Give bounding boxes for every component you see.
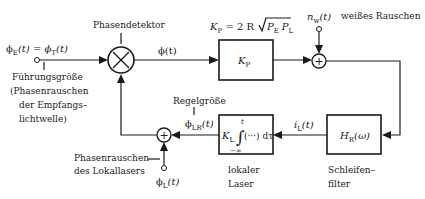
loop-filter: HR(ω) Schleifen– filter [327, 115, 381, 189]
noise-caption: weißes Rauschen [341, 11, 421, 21]
control-signal-label: ϕLR(t) [185, 118, 214, 132]
loop-filter-caption-1: Schleifen– [328, 165, 376, 175]
arrow-into-feedback-adder-bottom [160, 142, 168, 151]
input-terminal [35, 58, 40, 63]
local-laser-caption-1: lokaler [228, 165, 260, 175]
local-laser: KL ∫ t −∞ (···) dτ lokaler Laser [219, 115, 273, 189]
pll-block-diagram: ϕE(t) = ϕT(t) Führungsgröße (Phasenrausc… [0, 0, 425, 199]
plus-icon: + [314, 55, 323, 68]
arrow-into-detector-bottom [117, 74, 125, 83]
current-signal-label: iL(t) [294, 119, 314, 133]
gain-formula-sqrt: PEPL [266, 21, 294, 35]
input-signal: ϕE(t) = ϕT(t) Führungsgröße (Phasenrausc… [6, 43, 89, 124]
local-noise-input: Phasenrauschen des Lokallasers ϕL(t) [74, 142, 179, 190]
gain-block: KP = 2 R PEPL KP [209, 18, 294, 80]
control-signal: Regelgröße ϕLR(t) [173, 96, 226, 132]
integral-lower-limit: −∞ [230, 147, 242, 155]
arrow-into-laser [273, 131, 282, 139]
input-label: ϕE(t) = ϕT(t) [6, 43, 68, 57]
arrow-into-noise-adder [303, 56, 312, 64]
input-caption-1: Führungsgröße [12, 72, 83, 82]
local-noise-terminal [162, 166, 167, 171]
feedback-adder: + [157, 128, 171, 142]
noise-terminal [317, 27, 322, 32]
local-noise-caption-2: des Lokallasers [74, 166, 145, 176]
input-caption-4: lichtwelle) [19, 114, 67, 124]
noise-input: nw(t) weißes Rauschen [307, 11, 421, 54]
feedback-line [121, 82, 157, 135]
arrow-into-detector [99, 56, 108, 64]
local-noise-label: ϕL(t) [156, 176, 179, 190]
loop-filter-caption-2: filter [328, 179, 351, 189]
arrow-into-noise-adder-top [315, 45, 323, 54]
phase-detector: Phasendetektor [93, 20, 165, 73]
gain-formula: KP = 2 R [209, 21, 254, 35]
local-noise-caption-1: Phasenrauschen [74, 153, 149, 163]
arrow-into-gain [209, 56, 219, 64]
plus-icon: + [159, 129, 168, 142]
gain-box [219, 40, 273, 80]
phase-detector-label: Phasendetektor [93, 20, 165, 30]
arrow-into-feedback-adder [171, 131, 180, 139]
control-caption: Regelgröße [173, 96, 226, 106]
phase-signal-label: ϕ(t) [158, 45, 177, 56]
input-caption-2: (Phasenrauschen [10, 86, 89, 96]
integrand: (···) dτ [244, 131, 273, 141]
arrow-into-filter [382, 131, 391, 139]
integral-upper-limit: t [241, 118, 244, 126]
input-caption-3: der Empfangs– [19, 100, 88, 110]
noise-adder: + [312, 54, 326, 68]
noise-label: nw(t) [307, 11, 331, 25]
local-laser-caption-2: Laser [228, 179, 254, 189]
